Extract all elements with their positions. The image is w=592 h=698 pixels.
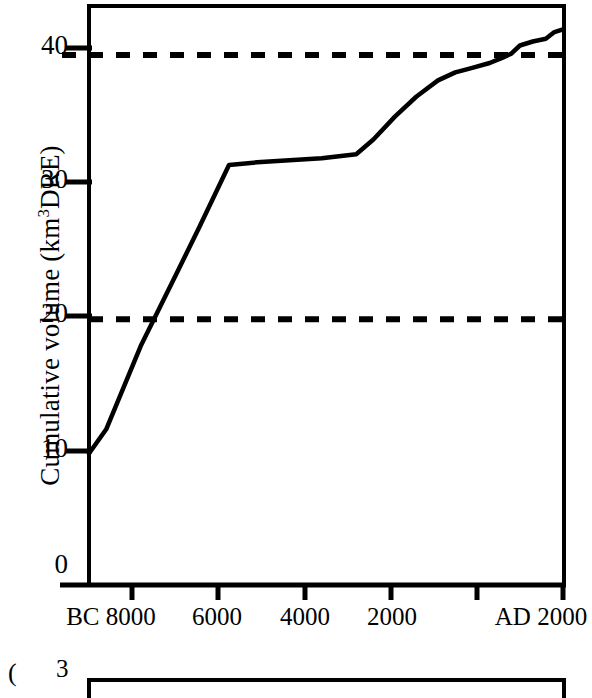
panel-b-marker: ( (8, 660, 17, 686)
plot-area (0, 0, 592, 698)
figure-panel-a: Cumulative volume (km3DRE) 40 30 20 10 0… (0, 0, 592, 698)
panel-b-y-tick-label: 3 (56, 656, 69, 681)
plot-frame (89, 6, 564, 585)
series-cumulative-volume (89, 29, 563, 453)
